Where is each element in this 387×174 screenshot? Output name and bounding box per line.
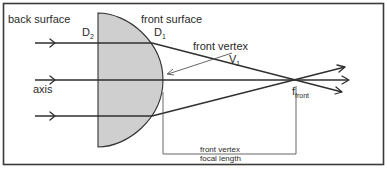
axis-label: axis <box>33 83 53 95</box>
diagram-frame <box>4 4 384 165</box>
dimension-label-line2: focal length <box>200 154 241 163</box>
lens-diagram: back surface D2 front surface D1 front v… <box>0 0 387 174</box>
dimension-label-line1: front vertex <box>200 145 240 154</box>
back-surface-label: back surface <box>8 13 70 25</box>
front-surface-label: front surface <box>141 13 202 25</box>
front-vertex-label: front vertex <box>193 40 249 52</box>
